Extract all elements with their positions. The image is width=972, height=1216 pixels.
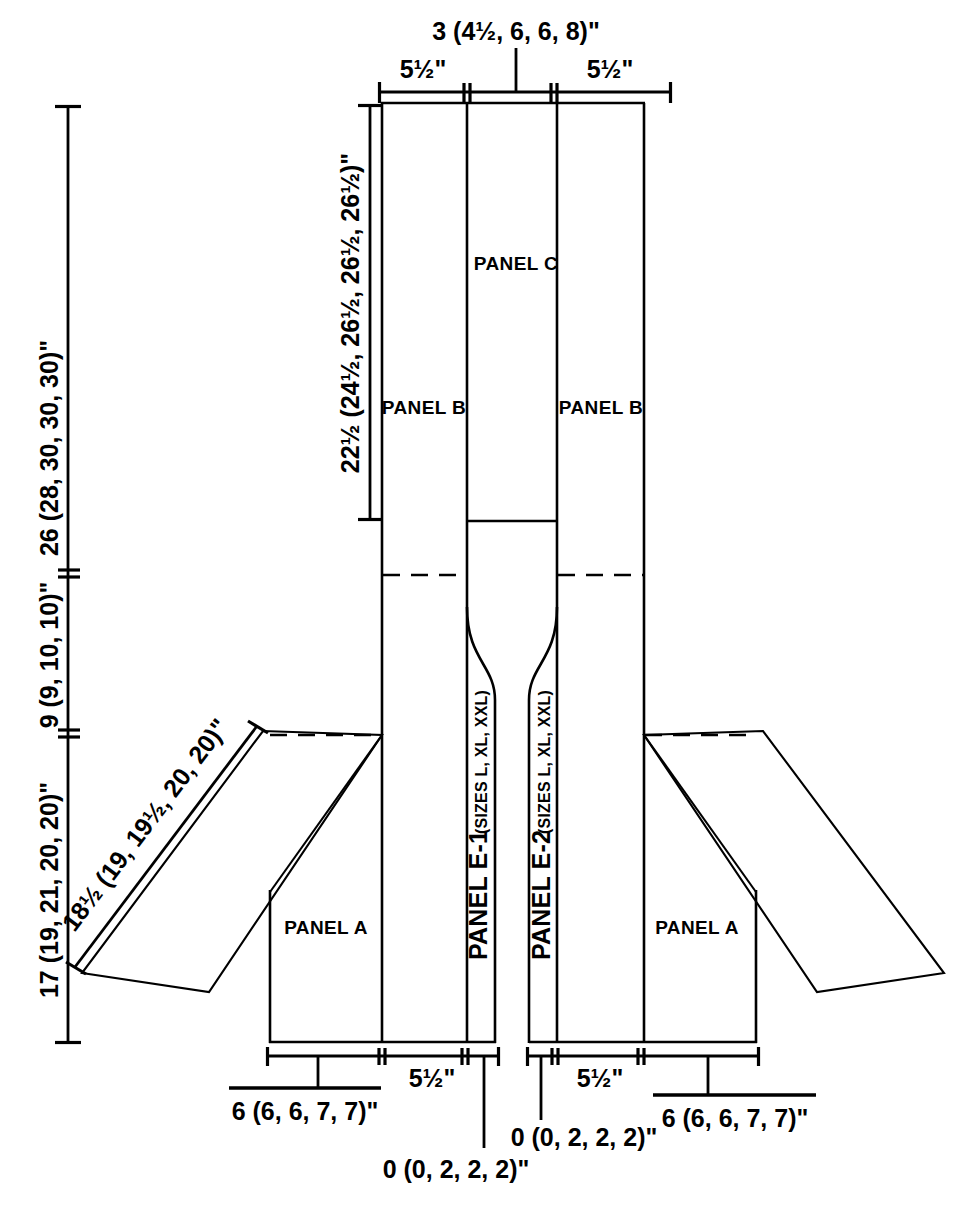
panel-e2-label: PANEL E-2 [527, 830, 555, 960]
upper-body-height-label: 22½ (24½, 26½, 26½, 26½)" [336, 153, 364, 473]
panel-e1-label: PANEL E-1 [464, 830, 492, 960]
armhole-depth-label: 9 (9, 10, 10)" [35, 582, 63, 729]
bottom-left-panel-a-label: 6 (6, 6, 7, 7)" [232, 1097, 379, 1125]
sleeve-length-label: 18½ (19, 19½, 20, 20)" [56, 713, 234, 936]
bottom-center-right-label: 0 (0, 2, 2, 2)" [511, 1123, 658, 1151]
bottom-right-panel-a-label: 6 (6, 6, 7, 7)" [662, 1104, 809, 1132]
panel-b-left-label: PANEL B [382, 397, 466, 418]
bottom-left-width-label: 5½" [409, 1064, 456, 1092]
panel-a-right-label: PANEL A [655, 917, 739, 938]
garment-schematic: 26 (28, 30, 30, 30)" 9 (9, 10, 10)" 17 (… [0, 0, 972, 1216]
top-center-width-label: 3 (4½, 6, 6, 8)" [432, 17, 600, 45]
panel-c-label: PANEL C [474, 253, 558, 274]
panel-a-left-label: PANEL A [284, 917, 368, 938]
panel-a-left-diagonal [270, 735, 382, 892]
top-left-width-label: 5½" [400, 55, 447, 83]
body-upper-block [381, 103, 645, 1043]
panel-e1-sizes-label: (SIZES L, XL, XXL) [473, 690, 490, 834]
left-sleeve-dim-axis [75, 726, 257, 967]
panel-e2-label-group: PANEL E-2 (SIZES L, XL, XXL) [527, 690, 555, 960]
left-sleeve-dim-cap-top [248, 721, 268, 733]
right-sleeve-outline [644, 731, 944, 992]
right-sleeve-shape [644, 731, 944, 992]
lower-height-label: 17 (19, 21, 20, 20)" [35, 782, 63, 998]
panel-e2-sizes-label: (SIZES L, XL, XXL) [536, 690, 553, 834]
bottom-center-left-label: 0 (0, 2, 2, 2)" [383, 1155, 530, 1183]
panel-a-right-diagonal [644, 735, 756, 892]
schematic-canvas: 26 (28, 30, 30, 30)" 9 (9, 10, 10)" 17 (… [0, 0, 972, 1216]
total-height-label: 26 (28, 30, 30, 30)" [35, 340, 63, 556]
panel-b-right-label: PANEL B [559, 397, 643, 418]
bottom-right-width-label: 5½" [577, 1064, 624, 1092]
top-right-width-label: 5½" [587, 55, 634, 83]
